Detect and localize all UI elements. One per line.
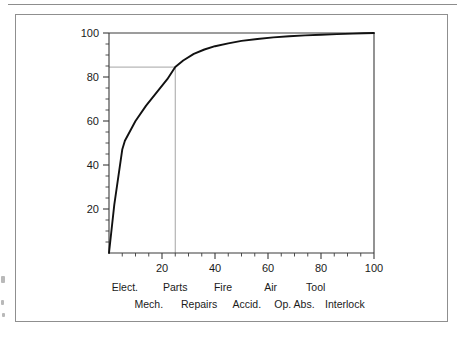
- x-axis-tick-label: 80: [315, 262, 327, 274]
- x-axis-tick-label: 100: [365, 262, 383, 274]
- pareto-cumulative-chart: 2040608010020406080100Elect.PartsFireAir…: [16, 15, 449, 323]
- scan-artifact-mark: [1, 276, 5, 283]
- category-label-row2: Interlock: [325, 298, 365, 310]
- y-axis-tick-label: 20: [87, 203, 99, 215]
- category-label-row2: Accid.: [233, 298, 262, 310]
- category-label-row1: Elect.: [112, 281, 138, 293]
- top-divider-rule: [8, 4, 457, 5]
- figure-container: 2040608010020406080100Elect.PartsFireAir…: [15, 14, 448, 322]
- y-axis-tick-label: 100: [81, 27, 99, 39]
- scan-artifact-mark: [2, 313, 5, 317]
- x-axis-tick-label: 60: [262, 262, 274, 274]
- y-axis-tick-label: 80: [87, 71, 99, 83]
- category-label-row1: Fire: [214, 281, 232, 293]
- category-label-row2: Op. Abs.: [274, 298, 314, 310]
- category-label-row2: Repairs: [181, 298, 217, 310]
- category-label-row1: Tool: [306, 281, 325, 293]
- scan-artifact-mark: [1, 300, 4, 305]
- y-axis-tick-label: 60: [87, 115, 99, 127]
- x-axis-tick-label: 40: [209, 262, 221, 274]
- page-root: 2040608010020406080100Elect.PartsFireAir…: [0, 0, 461, 337]
- cumulative-curve: [109, 33, 374, 253]
- x-axis-tick-label: 20: [156, 262, 168, 274]
- y-axis-tick-label: 40: [87, 159, 99, 171]
- category-label-row2: Mech.: [134, 298, 163, 310]
- category-label-row1: Air: [264, 281, 277, 293]
- category-label-row1: Parts: [163, 281, 188, 293]
